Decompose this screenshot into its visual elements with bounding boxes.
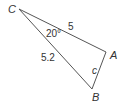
vertex-label-c: C — [8, 3, 16, 15]
vertex-label-a: A — [109, 49, 117, 61]
triangle-diagram: C A B 5 20° 5.2 c — [0, 0, 124, 104]
triangle-abc — [19, 9, 106, 89]
side-label-ca: 5 — [68, 21, 74, 32]
side-label-cb: 5.2 — [41, 52, 55, 63]
angle-label-c: 20° — [46, 28, 61, 39]
side-label-ab: c — [92, 65, 97, 76]
vertex-label-b: B — [92, 91, 99, 103]
